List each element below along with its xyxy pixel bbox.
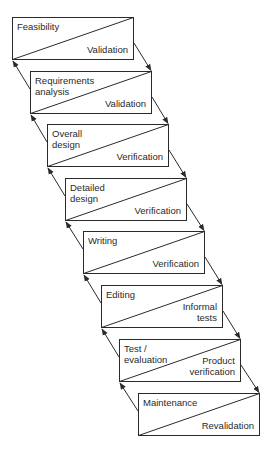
- stage-label: Maintenance: [143, 397, 197, 408]
- stage-label: Overall design: [52, 128, 82, 150]
- stage-test-evaluation: Test / evaluationProduct verification: [119, 339, 240, 381]
- stage-detailed-design: Detailed designVerification: [65, 178, 186, 220]
- stage-label: Feasibility: [17, 21, 59, 32]
- stage-label: Test / evaluation: [124, 343, 167, 365]
- stage-check-label: Verification: [117, 151, 163, 162]
- waterfall-diagram: [0, 0, 273, 451]
- stage-check-label: Verification: [153, 258, 199, 269]
- forward-arrow-icon: [187, 204, 204, 231]
- stage-label: Editing: [106, 289, 135, 300]
- feedback-arrow-icon: [66, 222, 83, 249]
- forward-arrow-icon: [134, 43, 151, 71]
- forward-arrow-icon: [205, 257, 222, 285]
- forward-arrow-icon: [169, 150, 186, 178]
- stage-writing: WritingVerification: [83, 231, 204, 273]
- feedback-arrow-icon: [48, 168, 65, 196]
- forward-arrow-icon: [152, 97, 168, 124]
- stage-maintenance: MaintenanceRevalidation: [138, 393, 259, 435]
- stage-requirements-analysis: Requirements analysisValidation: [30, 71, 151, 113]
- feedback-arrow-icon: [84, 275, 101, 303]
- forward-arrow-icon: [241, 365, 259, 393]
- forward-arrow-icon: [223, 311, 240, 339]
- feedback-arrow-icon: [102, 329, 119, 357]
- stage-label: Detailed design: [70, 182, 105, 204]
- stage-label: Writing: [88, 235, 117, 246]
- stage-check-label: Informal tests: [183, 301, 217, 323]
- stage-feasibility: FeasibilityValidation: [12, 17, 133, 59]
- stage-label: Requirements analysis: [35, 75, 94, 97]
- stage-overall-design: Overall designVerification: [47, 124, 168, 166]
- stage-check-label: Product verification: [190, 355, 235, 377]
- feedback-arrow-icon: [120, 383, 138, 411]
- stage-check-label: Verification: [135, 205, 181, 216]
- stage-check-label: Validation: [87, 44, 128, 55]
- feedback-arrow-icon: [13, 61, 30, 89]
- stage-check-label: Revalidation: [202, 420, 254, 431]
- stage-check-label: Validation: [105, 98, 146, 109]
- feedback-arrow-icon: [31, 115, 47, 142]
- stage-editing: EditingInformal tests: [101, 285, 222, 327]
